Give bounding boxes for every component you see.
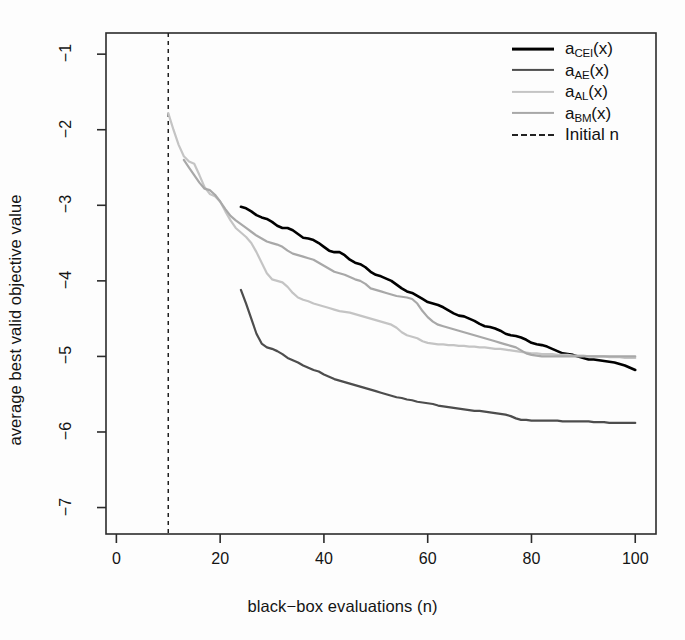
legend-label: aCEI(x) [565, 40, 613, 57]
x-tick-label: 20 [190, 550, 250, 568]
legend-swatch-icon [510, 42, 556, 56]
y-tick-label: −5 [57, 335, 75, 375]
legend-item-al[interactable]: aAL(x) [510, 81, 660, 103]
legend-label: aBM(x) [565, 105, 611, 122]
legend-label: aAE(x) [565, 62, 609, 79]
chart-figure: black−box evaluations (n) average best v… [0, 0, 685, 640]
legend-label: Initial n [565, 126, 619, 143]
x-tick-label: 40 [294, 550, 354, 568]
y-tick-label: −1 [57, 33, 75, 73]
legend-item-initial[interactable]: Initial n [510, 124, 660, 146]
legend-item-bm[interactable]: aBM(x) [510, 103, 660, 125]
legend-swatch-icon [510, 106, 556, 120]
legend-item-cei[interactable]: aCEI(x) [510, 38, 660, 60]
x-tick-label: 60 [398, 550, 458, 568]
legend-swatch-icon [510, 63, 556, 77]
y-tick-label: −2 [57, 109, 75, 149]
x-axis-title: black−box evaluations (n) [0, 597, 685, 616]
series-lines [168, 113, 635, 423]
series-line-al [168, 113, 635, 358]
x-tick-label: 0 [86, 550, 146, 568]
legend-swatch-icon [510, 85, 556, 99]
x-tick-label: 100 [605, 550, 665, 568]
x-tick-label: 80 [501, 550, 561, 568]
series-line-cei [241, 207, 635, 370]
legend-label: aAL(x) [565, 83, 608, 100]
y-tick-label: −3 [57, 184, 75, 224]
legend-item-ae[interactable]: aAE(x) [510, 60, 660, 82]
chart-legend: aCEI(x)aAE(x)aAL(x)aBM(x)Initial n [510, 38, 660, 146]
y-tick-label: −6 [57, 411, 75, 451]
y-tick-label: −4 [57, 260, 75, 300]
legend-swatch-icon [510, 128, 556, 142]
series-line-bm [184, 160, 635, 356]
y-tick-label: −7 [57, 487, 75, 527]
y-axis-title: average best valid objective value [0, 0, 30, 640]
